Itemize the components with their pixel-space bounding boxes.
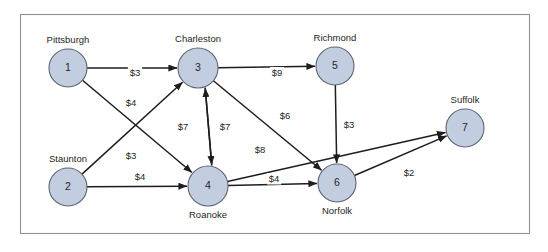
node-id-5: 5: [332, 59, 338, 71]
node-6[interactable]: 6Norfolk: [318, 164, 356, 216]
edge-label-2-4: $4: [135, 171, 146, 182]
node-id-7: 7: [462, 121, 468, 133]
node-label-2: Staunton: [49, 153, 87, 164]
node-label-7: Suffolk: [451, 94, 480, 105]
node-id-2: 2: [65, 180, 71, 192]
node-7[interactable]: 7Suffolk: [446, 94, 484, 147]
node-id-4: 4: [205, 179, 211, 191]
node-id-1: 1: [65, 61, 71, 73]
node-label-1: Pittsburgh: [47, 34, 90, 45]
node-5[interactable]: 5Richmond: [314, 32, 357, 85]
node-label-3: Charleston: [175, 33, 221, 44]
edge-label-3-5: $9: [272, 67, 283, 78]
edge-label-3-6: $6: [280, 110, 291, 121]
network-graph-svg: $3$4$3$4$7$7$9$6$3$4$8$2 1Pittsburgh2Sta…: [0, 0, 548, 252]
node-1[interactable]: 1Pittsburgh: [47, 34, 90, 87]
node-id-3: 3: [195, 61, 201, 73]
edge-label-6-7: $2: [404, 167, 415, 178]
node-3[interactable]: 3Charleston: [175, 33, 221, 88]
node-label-6: Norfolk: [322, 205, 352, 216]
edge-label-1-4: $4: [126, 97, 137, 108]
edge-label-4-6: $4: [269, 173, 280, 184]
node-id-6: 6: [334, 176, 340, 188]
edge-label-5-6: $3: [344, 119, 355, 130]
node-label-5: Richmond: [314, 32, 357, 43]
edge-label-4-7: $8: [255, 144, 266, 155]
edge-label-3-4: $7: [178, 121, 189, 132]
edge-label-4-3: $7: [220, 121, 231, 132]
node-2[interactable]: 2Staunton: [49, 153, 87, 206]
edge-label-1-3: $3: [130, 67, 141, 78]
node-4[interactable]: 4Roanoke: [188, 166, 228, 220]
edge-2-to-4: [87, 186, 187, 187]
edge-label-2-3: $3: [126, 150, 137, 161]
node-label-4: Roanoke: [189, 209, 227, 220]
network-diagram: $3$4$3$4$7$7$9$6$3$4$8$2 1Pittsburgh2Sta…: [0, 0, 548, 252]
